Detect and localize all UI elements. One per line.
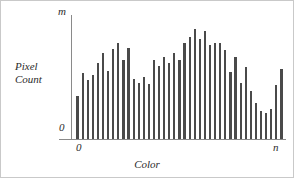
histogram-bar — [194, 29, 196, 139]
x-axis-min-label: 0 — [76, 141, 82, 154]
histogram-bar — [260, 111, 262, 139]
histogram-bar — [224, 50, 226, 139]
histogram-bar — [250, 91, 252, 139]
histogram-bar — [178, 60, 180, 139]
histogram-bar — [209, 45, 211, 139]
x-axis-title: Color — [1, 158, 293, 171]
y-axis-max-label: m — [58, 5, 66, 18]
x-axis-line — [59, 139, 286, 140]
y-axis-title: Pixel Count — [15, 60, 42, 85]
histogram-bar — [240, 83, 242, 139]
histogram-bar — [245, 67, 247, 139]
histogram-bar — [219, 43, 221, 139]
y-axis-title-line1: Pixel — [15, 60, 42, 73]
histogram-bar — [117, 43, 119, 139]
histogram-bar — [183, 43, 185, 139]
histogram-bar — [127, 48, 129, 139]
plot-area — [75, 19, 284, 139]
histogram-bar — [97, 63, 99, 139]
histogram-bar — [107, 71, 109, 139]
histogram-bar — [163, 57, 165, 139]
y-axis-title-line2: Count — [15, 73, 42, 86]
histogram-bar — [76, 96, 78, 139]
histogram-bar — [204, 31, 206, 139]
histogram-bar — [148, 84, 150, 139]
y-axis-min-label: 0 — [59, 121, 65, 134]
histogram-bar — [143, 77, 145, 139]
histogram-bar — [173, 53, 175, 139]
histogram-bar — [270, 109, 272, 139]
histogram-bar — [102, 53, 104, 139]
histogram-figure: m 0 Pixel Count 0 n Color — [0, 0, 294, 178]
histogram-bar — [265, 113, 267, 139]
histogram-bar — [153, 60, 155, 139]
histogram-bar — [189, 37, 191, 139]
histogram-bar — [158, 66, 160, 139]
histogram-bar — [255, 103, 257, 139]
histogram-bar — [280, 69, 282, 139]
y-axis-line — [71, 15, 72, 139]
x-axis-max-label: n — [273, 141, 279, 154]
histogram-bar — [214, 43, 216, 139]
histogram-bar — [133, 79, 135, 139]
histogram-bar — [92, 75, 94, 139]
histogram-bar — [87, 80, 89, 139]
histogram-bar — [122, 60, 124, 139]
histogram-bar — [199, 39, 201, 139]
histogram-bar — [234, 57, 236, 139]
histogram-bar — [229, 72, 231, 139]
histogram-bar — [168, 63, 170, 139]
histogram-bar — [275, 85, 277, 139]
histogram-bar — [82, 73, 84, 139]
histogram-bar — [138, 83, 140, 139]
histogram-bar — [112, 49, 114, 139]
